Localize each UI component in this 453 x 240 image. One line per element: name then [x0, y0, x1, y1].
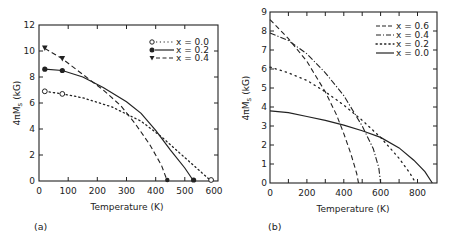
x-tick-label: 300 — [118, 186, 135, 196]
figure: 0 100 200 300 400 500 600 0 2 4 6 8 10 1… — [0, 0, 453, 240]
open-circle-marker-icon — [42, 89, 47, 94]
y-tick-label: 9 — [261, 7, 267, 17]
legend-label: x = 0.4 — [176, 53, 209, 63]
y-tick-label: 6 — [261, 64, 267, 74]
y-tick-label: 7 — [261, 45, 267, 55]
x-tick-label: 500 — [176, 186, 193, 196]
open-circle-marker-icon — [150, 40, 154, 44]
x-tick-label: 400 — [147, 186, 164, 196]
y-axis-title: 4πMs(kG) — [241, 76, 253, 121]
x-axis-title: Temperature (K) — [90, 202, 164, 212]
x-tick-label: 0 — [267, 188, 273, 198]
y-tick-label: 8 — [261, 26, 267, 36]
series-x0.2 — [45, 69, 194, 181]
x-tick-labels: 0 100 200 300 400 500 600 — [36, 186, 223, 196]
y-tick-labels: 0 1 2 3 4 5 6 7 8 9 — [261, 7, 267, 188]
markers-x0.4 — [42, 46, 170, 183]
series-x0.4 — [270, 33, 381, 183]
legend-label: x = 0.0 — [396, 48, 429, 58]
x-tick-label: 800 — [409, 188, 426, 198]
filled-triangle-marker-icon — [150, 56, 155, 61]
filled-triangle-marker-icon — [60, 56, 66, 61]
x-tick-label: 400 — [335, 188, 352, 198]
filled-circle-marker-icon — [42, 67, 47, 72]
y-tick-label: 1 — [261, 159, 267, 169]
x-axis-title: Temperature (K) — [316, 204, 390, 214]
filled-circle-marker-icon — [150, 48, 155, 53]
y-tick-label: 2 — [261, 140, 267, 150]
panel-label: (b) — [268, 221, 281, 232]
series-x0.6 — [270, 20, 359, 183]
open-circle-marker-icon — [60, 92, 65, 97]
x-tick-label: 600 — [205, 186, 222, 196]
y-tick-label: 2 — [29, 150, 35, 160]
y-tick-label: 3 — [261, 121, 267, 131]
y-tick-label: 4 — [261, 102, 267, 112]
panel-label: (a) — [34, 221, 47, 232]
panel-b: 0 200 400 600 800 0 1 2 3 4 5 6 7 8 9 Te… — [241, 7, 437, 232]
markers-x0.2 — [42, 67, 196, 183]
series-x0.0 — [270, 111, 432, 183]
y-axis-title: 4πMs(kG) — [12, 81, 24, 126]
series-x0.0 — [45, 91, 211, 181]
y-tick-label: 0 — [261, 178, 267, 188]
y-tick-label: 4 — [29, 124, 35, 134]
legend-a: x = 0.0 x = 0.2 x = 0.4 — [150, 37, 210, 63]
legend-b: x = 0.6 x = 0.4 x = 0.2 x = 0.0 — [376, 21, 429, 58]
x-tick-label: 0 — [36, 186, 42, 196]
panel-a: 0 100 200 300 400 500 600 0 2 4 6 8 10 1… — [12, 20, 223, 232]
x-ticks — [68, 25, 185, 181]
y-tick-label: 12 — [24, 20, 35, 30]
filled-circle-marker-icon — [60, 68, 65, 73]
x-tick-label: 200 — [298, 188, 315, 198]
y-tick-label: 0 — [29, 176, 35, 186]
filled-circle-marker-icon — [191, 177, 196, 182]
y-tick-label: 10 — [24, 46, 36, 56]
x-tick-label: 100 — [60, 186, 77, 196]
y-tick-labels: 0 2 4 6 8 10 12 — [24, 20, 36, 186]
x-tick-label: 200 — [89, 186, 106, 196]
open-circle-marker-icon — [209, 178, 214, 183]
x-tick-label: 600 — [372, 188, 389, 198]
y-tick-label: 6 — [29, 98, 35, 108]
y-tick-label: 5 — [261, 83, 267, 93]
x-tick-labels: 0 200 400 600 800 — [267, 188, 426, 198]
y-tick-label: 8 — [29, 72, 35, 82]
filled-marker-icon — [165, 178, 169, 182]
